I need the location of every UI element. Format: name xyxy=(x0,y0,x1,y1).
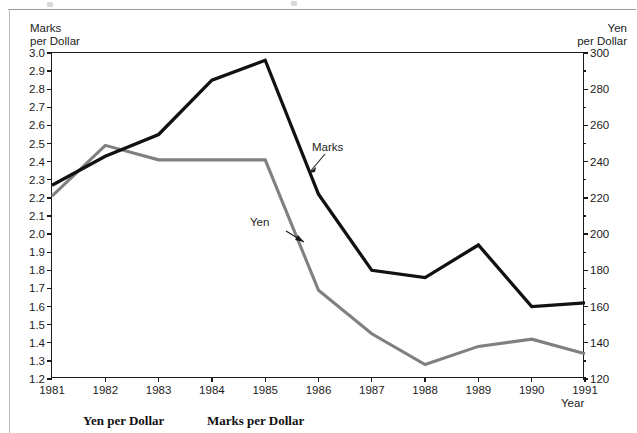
left-tick-label: 1.5 xyxy=(29,319,45,331)
right-tick-label: 180 xyxy=(590,264,609,276)
right-tick-label: 240 xyxy=(590,156,609,168)
x-tick-label: 1987 xyxy=(359,384,385,396)
left-tick-label: 1.7 xyxy=(29,282,45,294)
annotation-arrow-marks xyxy=(309,154,325,173)
left-tick-label: 1.9 xyxy=(29,246,45,258)
right-tick-label: 220 xyxy=(590,192,609,204)
page-top-rule xyxy=(8,9,636,10)
left-tick-label: 3.0 xyxy=(29,47,45,59)
left-tick-label: 1.6 xyxy=(29,301,45,313)
scan-speck xyxy=(47,2,53,7)
left-tick-label: 1.3 xyxy=(29,355,45,367)
right-tick-label: 300 xyxy=(590,47,609,59)
left-tick-label: 2.2 xyxy=(29,192,45,204)
right-axis-title-line1: Yen xyxy=(577,22,627,35)
x-tick-label: 1989 xyxy=(466,384,492,396)
left-axis-title: Marks per Dollar xyxy=(30,22,80,48)
left-tick-label: 2.1 xyxy=(29,210,45,222)
left-tick-label: 2.5 xyxy=(29,138,45,150)
x-tick-label: 1983 xyxy=(146,384,172,396)
left-tick-label: 2.3 xyxy=(29,174,45,186)
x-tick-label: 1981 xyxy=(39,384,65,396)
series-line-yen xyxy=(52,145,585,364)
left-tick-label: 2.7 xyxy=(29,101,45,113)
series-line-marks xyxy=(52,60,585,306)
right-tick-label: 140 xyxy=(590,337,609,349)
x-tick-label: 1984 xyxy=(199,384,225,396)
caption-yen-per-dollar: Yen per Dollar xyxy=(83,413,164,429)
left-tick-label: 2.8 xyxy=(29,83,45,95)
x-tick-label: 1985 xyxy=(252,384,278,396)
left-tick-label: 2.9 xyxy=(29,65,45,77)
x-axis-label: Year xyxy=(561,397,584,409)
scan-speck xyxy=(291,1,297,6)
annotation-label-yen: Yen xyxy=(250,216,269,228)
annotation-label-marks: Marks xyxy=(312,141,343,153)
x-tick-label: 1990 xyxy=(519,384,545,396)
left-axis-title-line1: Marks xyxy=(30,22,80,35)
left-tick-label: 1.4 xyxy=(29,337,45,349)
page-left-rule xyxy=(9,9,10,433)
x-tick-label: 1991 xyxy=(572,384,598,396)
left-tick-label: 2.6 xyxy=(29,119,45,131)
plot-area: 3.02.92.82.72.62.52.42.32.22.12.01.91.81… xyxy=(51,52,584,378)
left-tick-label: 2.4 xyxy=(29,156,45,168)
x-tick-label: 1986 xyxy=(306,384,332,396)
chart-page: Marks per Dollar Yen per Dollar 3.02.92.… xyxy=(0,0,637,433)
x-tick-label: 1988 xyxy=(412,384,438,396)
right-tick-label: 280 xyxy=(590,83,609,95)
series-layer xyxy=(52,53,585,379)
caption-marks-per-dollar: Marks per Dollar xyxy=(207,413,304,429)
right-tick-label: 200 xyxy=(590,228,609,240)
right-tick-label: 260 xyxy=(590,119,609,131)
left-tick-label: 1.8 xyxy=(29,264,45,276)
x-tick-label: 1982 xyxy=(93,384,119,396)
left-tick-label: 2.0 xyxy=(29,228,45,240)
right-axis-title: Yen per Dollar xyxy=(577,22,627,48)
right-tick-label: 160 xyxy=(590,301,609,313)
